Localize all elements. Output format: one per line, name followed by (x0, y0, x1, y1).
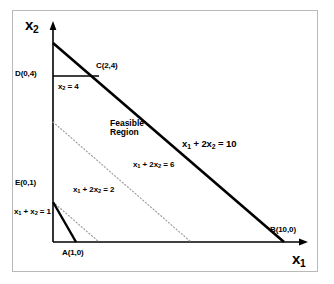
vertex-label-A: A(1,0) (62, 249, 84, 257)
vertex-label-B: B(10,0) (270, 226, 296, 234)
objective-line-6 (53, 122, 191, 242)
feasible-region-line2: Region (110, 128, 144, 137)
constraint-label-x1-plus-2x2-eq-10: x1 + 2x2 = 10 (182, 139, 236, 150)
constraint-label-x1-plus-2x2-eq-2: x1 + 2x2 = 2 (73, 186, 114, 194)
vertex-label-E: E(0,1) (15, 179, 36, 187)
vertex-label-D: D(0,4) (15, 70, 37, 78)
linear-programming-figure: x2 x1 D(0,4) C(2,4) E(0,1) A(1,0) B(10,0… (0, 0, 334, 284)
constraint-label-x2-eq-4: x2 = 4 (58, 83, 79, 91)
y-axis-label: x2 (25, 17, 38, 35)
constraint-line-sum-1 (53, 202, 76, 242)
vertex-label-C: C(2,4) (96, 62, 118, 70)
constraint-label-x1-plus-2x2-eq-6: x1 + 2x2 = 6 (133, 161, 174, 169)
x-axis (53, 239, 308, 246)
constraint-label-x1-plus-x2-eq-1: x1 + x2 = 1 (14, 208, 51, 216)
feasible-region-label: Feasible Region (110, 119, 144, 137)
objective-line-2 (53, 202, 99, 242)
plot-canvas (0, 0, 334, 284)
constraint-line-10 (53, 43, 284, 242)
x-axis-label: x1 (292, 251, 305, 269)
